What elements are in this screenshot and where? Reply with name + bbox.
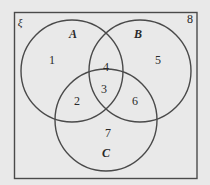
region-outside-value: 8	[187, 13, 193, 25]
region-c-only: 7	[105, 127, 111, 139]
set-b-label: B	[134, 28, 142, 40]
venn-diagram: ξ 8 A B C 1 4 5 2 3 6 7	[0, 0, 210, 185]
set-c-label: C	[102, 147, 110, 159]
region-a-and-b-only: 4	[103, 61, 109, 73]
universal-set-symbol: ξ	[18, 17, 23, 28]
set-a-label: A	[69, 28, 77, 40]
region-a-only: 1	[49, 54, 55, 66]
region-b-and-c-only: 6	[132, 95, 138, 107]
region-b-only: 5	[155, 54, 161, 66]
region-a-b-c: 3	[101, 83, 107, 95]
region-a-and-c-only: 2	[74, 95, 80, 107]
